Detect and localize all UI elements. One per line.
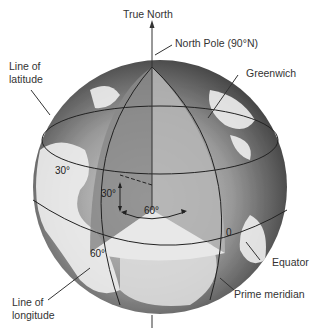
equator-label: Equator [272,256,309,268]
line-of-longitude-label-2: longitude [12,309,55,321]
true-north-label: True North [123,8,173,20]
line-of-latitude-label-1: Line of [9,60,41,72]
zero-label: 0 [226,227,232,238]
greenwich-label: Greenwich [246,67,296,79]
inner-longitude-angle: 60° [144,205,159,216]
north-pole-label: North Pole (90°N) [175,37,258,49]
true-north-arrow-icon [150,20,155,28]
line-of-longitude-label-1: Line of [12,296,44,308]
line-of-latitude-label-2: latitude [9,73,43,85]
inner-latitude-angle: 30° [101,188,116,199]
globe-diagram: 30° 30° 60° 60° 0 True North North Pole … [0,0,321,333]
latitude-30-label: 30° [55,165,70,176]
longitude-60-label: 60° [90,248,105,259]
prime-meridian-label: Prime meridian [234,288,305,300]
